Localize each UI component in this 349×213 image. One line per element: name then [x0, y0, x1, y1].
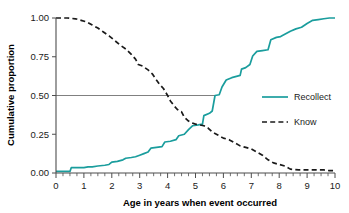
x-tick-label: 3: [137, 180, 142, 191]
chart-figure: 0.000.250.500.751.00012345678910 Recolle…: [0, 0, 349, 213]
x-tick-label: 1: [81, 180, 86, 191]
x-tick-label: 6: [221, 180, 226, 191]
x-tick-label: 2: [109, 180, 114, 191]
x-tick-label: 10: [330, 180, 341, 191]
x-tick-label: 7: [249, 180, 254, 191]
legend-label-recollect: Recollect: [294, 92, 332, 102]
x-tick-label: 0: [53, 180, 58, 191]
y-tick-label: 0.00: [31, 167, 50, 178]
y-tick-label: 0.50: [31, 90, 50, 101]
y-tick-label: 0.75: [31, 51, 50, 62]
axes-group: [52, 18, 335, 178]
legend-label-know: Know: [294, 117, 317, 127]
chart-canvas: 0.000.250.500.751.00012345678910 Recolle…: [0, 0, 349, 213]
x-tick-label: 8: [277, 180, 282, 191]
chart-legend: RecollectKnow: [262, 92, 332, 127]
y-axis-title: Cumulative proportion: [5, 44, 16, 146]
x-tick-label: 4: [165, 180, 170, 191]
x-axis-title: Age in years when event occurred: [123, 197, 277, 208]
x-tick-label: 5: [193, 180, 198, 191]
y-tick-label: 1.00: [31, 12, 50, 23]
x-tick-label: 9: [304, 180, 309, 191]
y-tick-label: 0.25: [31, 129, 50, 140]
